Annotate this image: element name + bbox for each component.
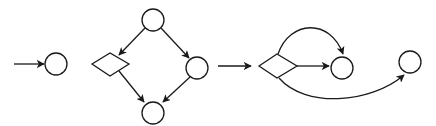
p2-bottom-state-circle	[142, 102, 164, 124]
panel-2-nodes	[92, 9, 208, 124]
p2-right-state-circle	[186, 57, 208, 79]
panel-3-edges	[218, 28, 404, 99]
p2-top-to-right-arrow	[161, 28, 189, 58]
p1-state-state-circle	[45, 53, 67, 75]
p3-state-a-state-circle	[331, 57, 353, 79]
panel-2-edges	[119, 28, 190, 102]
p3-state-b-state-circle	[399, 51, 421, 73]
p2-top-to-decision-arrow	[119, 28, 145, 55]
panel-3-nodes	[259, 51, 421, 79]
flow-diagram-canvas	[0, 0, 436, 126]
p2-top-state-circle	[142, 9, 164, 31]
p2-right-to-bottom-arrow	[163, 77, 190, 102]
p3-arc-top-arrow	[278, 28, 343, 54]
p2-decision-to-bottom-arrow	[119, 71, 144, 102]
p2-decision-diamond	[92, 53, 129, 76]
panel-1-nodes	[45, 53, 67, 75]
p3-decision-diamond	[259, 54, 297, 78]
